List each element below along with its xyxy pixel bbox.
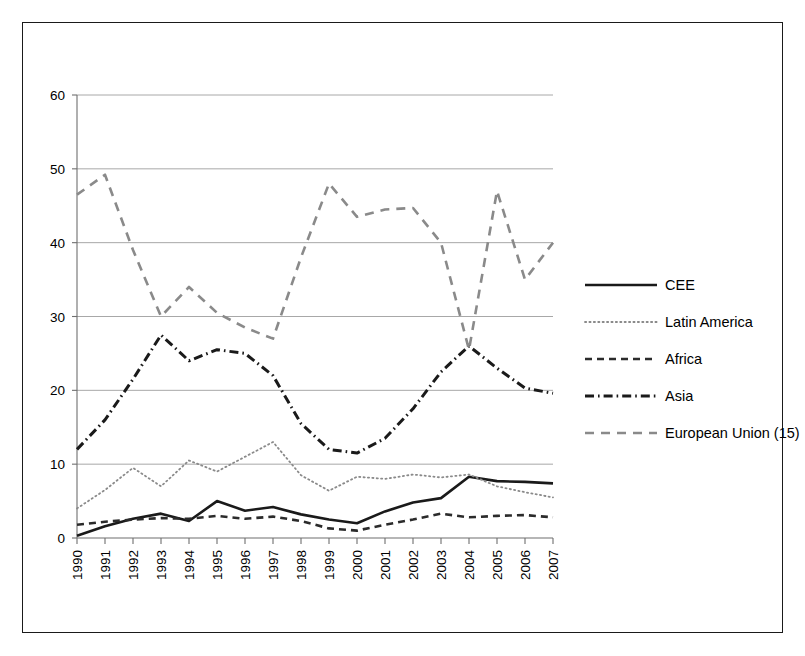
x-axis-tick-labels: 1990199119921993199419951996199719981999…	[70, 550, 561, 581]
legend-label-european-union-15: European Union (15)	[665, 425, 800, 441]
y-tick-label-40: 40	[50, 236, 65, 251]
chart-legend: CEELatin AmericaAfricaAsiaEuropean Union…	[585, 277, 800, 441]
series-line-cee	[77, 477, 553, 536]
legend-label-cee: CEE	[665, 277, 695, 293]
x-tick-label-2005: 2005	[490, 550, 505, 580]
x-tick-label-1993: 1993	[154, 550, 169, 580]
y-tick-label-10: 10	[50, 457, 65, 472]
chart-canvas: 0102030405060 19901991199219931994199519…	[0, 0, 805, 656]
series-line-european-union-15	[77, 175, 553, 350]
x-tick-label-1992: 1992	[126, 550, 141, 580]
legend-label-africa: Africa	[665, 351, 703, 367]
axes	[72, 95, 553, 544]
series-line-latin-america	[77, 442, 553, 508]
x-tick-label-1998: 1998	[294, 550, 309, 580]
legend-label-latin-america: Latin America	[665, 314, 754, 330]
x-tick-label-2004: 2004	[462, 550, 477, 581]
x-tick-label-2000: 2000	[350, 550, 365, 580]
x-tick-label-2007: 2007	[546, 550, 561, 580]
series-line-asia	[77, 335, 553, 453]
x-tick-label-1991: 1991	[98, 550, 113, 580]
line-chart: 0102030405060 19901991199219931994199519…	[0, 0, 805, 656]
y-tick-label-30: 30	[50, 310, 65, 325]
data-series	[77, 175, 553, 536]
x-tick-label-2006: 2006	[518, 550, 533, 580]
x-tick-label-2001: 2001	[378, 550, 393, 580]
legend-label-asia: Asia	[665, 388, 694, 404]
x-tick-label-2002: 2002	[406, 550, 421, 580]
x-tick-label-1997: 1997	[266, 550, 281, 580]
x-tick-label-2003: 2003	[434, 550, 449, 580]
x-tick-label-1994: 1994	[182, 550, 197, 581]
y-tick-label-50: 50	[50, 162, 65, 177]
y-tick-label-0: 0	[57, 531, 65, 546]
x-tick-label-1990: 1990	[70, 550, 85, 580]
x-tick-label-1999: 1999	[322, 550, 337, 580]
y-tick-label-60: 60	[50, 88, 65, 103]
x-tick-label-1995: 1995	[210, 550, 225, 580]
y-axis-tick-labels: 0102030405060	[50, 88, 65, 546]
x-tick-label-1996: 1996	[238, 550, 253, 580]
y-tick-label-20: 20	[50, 383, 65, 398]
